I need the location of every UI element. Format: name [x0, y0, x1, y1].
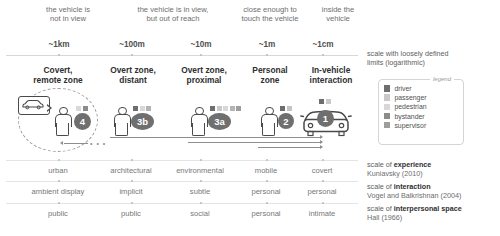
distance-label-4: ~1cm [302, 40, 344, 49]
legend-items: driver passenger pedestrian bystander su… [384, 85, 460, 129]
zone-badge-3a: 3a [208, 113, 231, 130]
descriptor-label-1: the vehicle is in view, but out of reach [118, 5, 228, 24]
swatch-driver [280, 106, 285, 111]
role-swatches-zone-2 [280, 106, 293, 111]
scale-value-experience-2: environmental [167, 166, 233, 175]
remote-device-bubble-tail-inner [46, 105, 50, 111]
legend-chip-pedestrian [384, 104, 390, 110]
scale-value-interpersonal-2: social [177, 209, 223, 218]
descriptor-label-2: close enough to touch the vehicle [228, 5, 312, 24]
scale-caption-interaction: scale of interaction Vogel and Balkrishn… [367, 183, 500, 200]
arrow-line-zone-3b [110, 137, 322, 138]
zone-badge-2: 2 [278, 113, 294, 129]
swatch-pedestrian [76, 106, 81, 111]
legend-label-bystander: bystander [394, 113, 424, 120]
role-swatches-zone-3a [210, 106, 243, 111]
zone-badge-4: 4 [74, 113, 91, 130]
legend-item-supervisor: supervisor [384, 122, 460, 129]
arrow-head-zone-4 [60, 141, 63, 145]
swatch-driver [210, 106, 215, 111]
scale-caption-experience: scale of experience Kuniavsky (2010) [367, 161, 499, 178]
arrow-line-zone-2 [258, 147, 322, 148]
distance-label-1: ~100m [110, 40, 154, 49]
role-swatches-zone-3b [133, 106, 153, 111]
scale-value-interpersonal-1: public [108, 209, 154, 218]
scale-caption-source: Vogel and Balkrishnan (2004) [367, 191, 461, 200]
scale-caption-interpersonal: scale of interpersonal space Hall (1966) [367, 205, 500, 222]
zone-badge-1: 1 [317, 110, 334, 127]
distance-label-3: ~1m [248, 40, 286, 49]
distance-scale-note: scale with loosely defined limits (logar… [367, 50, 499, 67]
legend-chip-bystander [384, 113, 390, 119]
legend-label-driver: driver [394, 85, 411, 92]
scale-caption-source: Kuniavsky (2010) [367, 169, 423, 178]
descriptor-label-0: the vehicle is not in view [22, 5, 114, 24]
legend-chip-supervisor [384, 122, 390, 128]
role-swatches-zone-1 [319, 99, 332, 104]
zone-title-1: Overt zone, distant [98, 65, 168, 85]
swatch-pedestrian [140, 106, 145, 111]
scale-value-interpersonal-4: intimate [297, 209, 347, 218]
arrow-head-zone-3a [320, 140, 323, 144]
zone-title-3: Personal zone [243, 65, 297, 85]
swatch-passenger [217, 106, 222, 111]
scale-value-interaction-1: implicit [105, 187, 157, 196]
arrow-line-zone-3a [188, 142, 322, 143]
scale-value-interaction-3: personal [241, 187, 291, 196]
zone-title-4: In-vehicle interaction [296, 65, 366, 85]
scale-value-experience-1: architectural [99, 166, 163, 175]
arrow-head-zone-3b [320, 135, 323, 139]
distance-label-0: ~1km [38, 40, 80, 49]
remote-car-glyph [21, 99, 45, 110]
scale-caption-name: interpersonal space [394, 204, 462, 213]
legend-item-bystander: bystander [384, 113, 460, 120]
figure-canvas: the vehicle is not in view the vehicle i… [0, 0, 500, 236]
swatch-supervisor [236, 106, 241, 111]
legend-item-pedestrian: pedestrian [384, 103, 460, 110]
legend-label-pedestrian: pedestrian [394, 103, 426, 110]
swatch-driver [133, 106, 138, 111]
scale-value-experience-3: mobile [244, 166, 288, 175]
zone-title-0: Covert, remote zone [18, 65, 98, 85]
legend-chip-driver [384, 85, 390, 91]
legend-caption: legend [430, 76, 454, 82]
zone-title-2: Overt zone, proximal [169, 65, 239, 85]
legend-label-supervisor: supervisor [394, 122, 426, 129]
scale-caption-source: Hall (1966) [367, 213, 402, 222]
scale-value-experience-4: covert [300, 166, 344, 175]
zone-badge-3b: 3b [131, 113, 154, 130]
scale-value-interaction-4: personal [297, 187, 347, 196]
arrow-head-zone-2 [320, 145, 323, 149]
scale-value-interpersonal-3: personal [241, 209, 291, 218]
arrow-ellipsis: • • • [90, 143, 106, 144]
scale-value-interaction-2: subtle [177, 187, 223, 196]
swatch-driver [319, 99, 324, 104]
swatch-bystander [287, 106, 292, 111]
scale-value-interaction-0: ambient display [22, 187, 94, 196]
swatch-pedestrian [223, 106, 228, 111]
swatch-bystander [83, 106, 88, 111]
swatch-passenger [326, 99, 331, 104]
legend-label-passenger: passenger [394, 94, 426, 101]
descriptor-label-3: inside the vehicle [310, 5, 366, 24]
swatch-bystander [230, 106, 235, 111]
scale-value-experience-0: urban [33, 166, 83, 175]
legend-item-passenger: passenger [384, 94, 460, 101]
arrow-line-zone-4 [64, 143, 88, 144]
legend-chip-passenger [384, 94, 390, 100]
swatch-bystander [146, 106, 151, 111]
role-swatches-zone-4 [76, 106, 89, 111]
distance-label-2: ~10m [180, 40, 222, 49]
legend-item-driver: driver [384, 85, 460, 92]
scale-value-interpersonal-0: public [35, 209, 81, 218]
